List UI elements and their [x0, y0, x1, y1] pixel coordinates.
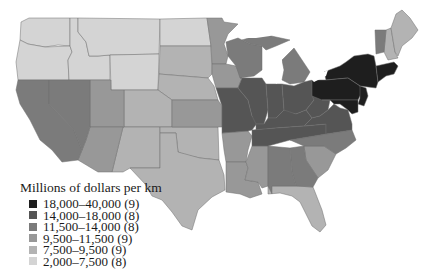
state-nebraska	[158, 74, 218, 100]
legend-swatch-3	[29, 223, 37, 231]
legend-swatch-1	[29, 200, 37, 208]
legend-swatch-2	[29, 211, 37, 219]
legend-swatch-4	[29, 234, 37, 242]
state-washington	[20, 18, 70, 47]
state-vermont	[375, 30, 386, 54]
state-north-dakota	[160, 18, 211, 46]
state-florida	[268, 186, 326, 232]
state-south-dakota	[159, 46, 212, 78]
legend-swatch-6	[29, 257, 37, 265]
state-massachusetts-ct-ri	[376, 62, 398, 82]
state-colorado	[124, 90, 172, 127]
legend-item: 2,000–7,500 (8)	[29, 256, 162, 268]
lake-michigan	[274, 48, 282, 84]
legend-label: 2,000–7,500 (8)	[43, 256, 126, 268]
map-legend: Millions of dollars per km 18,000–40,000…	[20, 180, 162, 267]
state-kansas	[172, 100, 222, 127]
state-montana	[78, 18, 160, 56]
legend-title: Millions of dollars per km	[20, 180, 162, 196]
state-maine	[391, 10, 418, 56]
legend-swatch-5	[29, 246, 37, 254]
state-wyoming	[110, 54, 159, 90]
